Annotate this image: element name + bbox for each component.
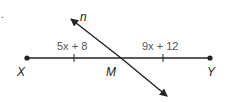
- line-n-label: n: [80, 10, 87, 24]
- label-x: X: [16, 65, 26, 79]
- expression-my: 9x + 12: [142, 40, 178, 52]
- label-y: Y: [207, 65, 216, 79]
- diagram-canvas: . n 5x + 8 9x + 12 X M Y: [0, 0, 230, 102]
- line-n-upper: [71, 19, 121, 58]
- problem-marker: .: [1, 9, 4, 20]
- label-m: M: [106, 65, 116, 79]
- point-x: [24, 55, 29, 60]
- expression-xm: 5x + 8: [57, 40, 87, 52]
- point-y: [207, 55, 212, 60]
- line-n-lower: [121, 58, 167, 96]
